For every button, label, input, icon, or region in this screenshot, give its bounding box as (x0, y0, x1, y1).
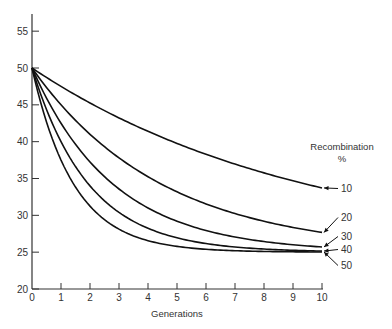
x-tick-label: 4 (145, 292, 151, 303)
curve-label-50: 50 (341, 260, 353, 271)
arrowhead-icon (324, 243, 329, 247)
y-tick-label: 35 (17, 173, 29, 184)
y-tick-label: 45 (17, 99, 29, 110)
y-tick-label: 20 (17, 284, 29, 295)
x-tick-label: 9 (290, 292, 296, 303)
y-tick-label: 55 (17, 26, 29, 37)
x-tick-label: 10 (316, 292, 328, 303)
y-tick-label: 30 (17, 210, 29, 221)
curve-10 (32, 68, 322, 188)
legend-unit: % (338, 153, 347, 164)
x-tick-label: 2 (87, 292, 93, 303)
x-tick-label: 1 (58, 292, 64, 303)
curves (32, 68, 322, 252)
recombination-chart: 2025303540455055012345678910 1020304050 … (0, 0, 392, 329)
x-tick-label: 8 (261, 292, 267, 303)
curve-label-20: 20 (341, 212, 353, 223)
y-tick-label: 25 (17, 247, 29, 258)
curve-20 (32, 68, 322, 232)
legend-title: Recombination (310, 141, 373, 152)
axes: 2025303540455055012345678910 (17, 14, 328, 303)
curve-label-40: 40 (341, 244, 353, 255)
x-tick-label: 3 (116, 292, 122, 303)
curve-label-30: 30 (341, 231, 353, 242)
curve-label-10: 10 (341, 183, 353, 194)
x-tick-label: 0 (29, 292, 35, 303)
y-tick-label: 50 (17, 63, 29, 74)
curve-labels: 1020304050 (324, 183, 353, 271)
x-axis-title: Generations (151, 308, 203, 319)
x-tick-label: 5 (174, 292, 180, 303)
x-tick-label: 6 (203, 292, 209, 303)
y-tick-label: 40 (17, 136, 29, 147)
x-tick-label: 7 (232, 292, 238, 303)
arrowhead-icon (324, 186, 329, 190)
